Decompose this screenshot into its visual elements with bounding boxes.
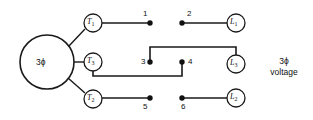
- terminal-label-1: 1: [143, 10, 147, 18]
- node-label-t1-sub: 1: [91, 21, 94, 27]
- terminal-label-3: 3: [141, 58, 145, 66]
- terminal-label-4: 4: [188, 58, 192, 66]
- lead-source-to-t1: [68, 29, 85, 47]
- terminal-dot-2: [179, 20, 184, 25]
- node-label-t3: T3: [87, 57, 94, 66]
- caption-line-2: voltage: [258, 67, 310, 78]
- node-label-t1: T1: [87, 18, 94, 27]
- node-label-t2: T2: [87, 94, 94, 103]
- three-phase-source-label: 3ϕ: [36, 58, 46, 67]
- terminal-dot-4: [179, 59, 184, 64]
- lead-source-to-t2: [68, 78, 85, 93]
- terminal-label-2: 2: [187, 10, 191, 18]
- three-phase-voltage-caption: 3ϕ voltage: [258, 56, 310, 77]
- node-label-l2: L2: [230, 93, 237, 102]
- node-label-t2-sub: 2: [91, 97, 94, 103]
- node-label-l1: L1: [230, 18, 237, 27]
- terminal-dot-6: [179, 95, 184, 100]
- terminal-dot-5: [147, 95, 152, 100]
- terminal-dot-3: [147, 59, 152, 64]
- node-label-l1-sub: 1: [234, 21, 237, 27]
- node-label-l3: L3: [230, 59, 237, 68]
- terminal-label-6: 6: [181, 103, 185, 111]
- terminal-dot-1: [147, 20, 152, 25]
- wire-t3-to-terminal4: [93, 62, 182, 76]
- node-label-l2-sub: 2: [234, 96, 237, 102]
- wire-terminal3-to-l3: [150, 47, 236, 62]
- wiring-diagram: 3ϕ T1 T3 T2 L1 L3 L2 1 2 3 4 5 6 3ϕ volt…: [0, 0, 313, 120]
- node-label-t3-sub: 3: [91, 60, 94, 66]
- terminal-label-5: 5: [143, 103, 147, 111]
- caption-line-1: 3ϕ: [258, 56, 310, 67]
- node-label-l3-sub: 3: [234, 62, 237, 68]
- three-phase-source-circle: [20, 35, 74, 89]
